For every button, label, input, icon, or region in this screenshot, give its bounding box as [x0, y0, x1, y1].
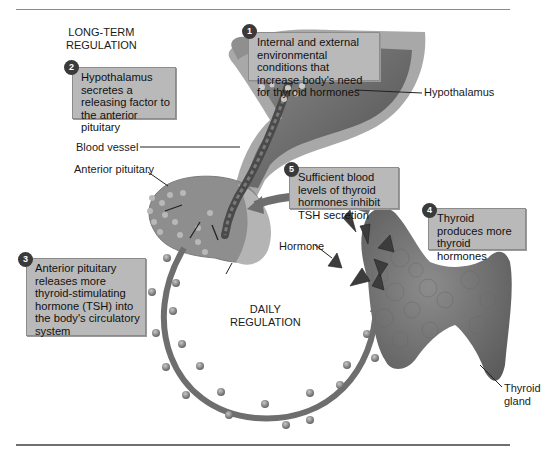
thyroid-gland-label: Thyroid gland [504, 382, 541, 408]
step-1-badge: 1 [242, 24, 257, 39]
daily-cycle-arrow [164, 248, 376, 418]
daily-line-2: REGULATION [230, 316, 301, 329]
bottom-rule [16, 444, 510, 446]
step-1-box: Internal and external environmental cond… [248, 32, 380, 81]
thyroid-gland-line-2: gland [504, 395, 541, 408]
long-term-line-1: LONG-TERM [66, 26, 137, 39]
step-3-badge: 3 [18, 252, 33, 267]
thyroid-gland-line-1: Thyroid [504, 382, 541, 395]
step-5-badge: 5 [284, 162, 299, 177]
long-term-regulation-label: LONG-TERM REGULATION [66, 26, 137, 52]
anterior-pituitary-label: Anterior pituitary [74, 163, 154, 175]
step-5-box: Sufficient blood levels of thyroid hormo… [289, 167, 399, 209]
daily-line-1: DAILY [230, 303, 301, 316]
step-3-text: Anterior pituitary releases more thyroid… [35, 262, 140, 337]
step-1-text: Internal and external environmental cond… [257, 36, 362, 98]
step-4-box: Thyroid produces more thyroid hormones [428, 208, 526, 250]
long-term-line-2: REGULATION [66, 39, 137, 52]
hormone-label: Hormone [279, 240, 324, 252]
blood-vessel-label: Blood vessel [76, 141, 138, 153]
daily-regulation-label: DAILY REGULATION [230, 303, 301, 329]
step-3-box: Anterior pituitary releases more thyroid… [26, 258, 146, 336]
hypothalamus-label: Hypothalamus [424, 86, 494, 98]
step-5-text: Sufficient blood levels of thyroid hormo… [298, 171, 380, 221]
step-4-badge: 4 [422, 203, 437, 218]
step-2-badge: 2 [64, 60, 79, 75]
step-2-box: Hypothalamus secretes a releasing factor… [72, 67, 176, 119]
